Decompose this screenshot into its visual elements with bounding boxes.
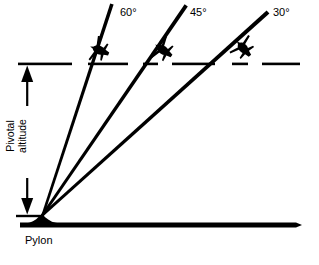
pivotal-altitude-diagram: 60° 45° 30° Pylon Pivotal altitude xyxy=(0,0,319,265)
lower-arrow-head xyxy=(21,198,33,214)
ground-line-group xyxy=(20,223,302,228)
pivotal-dash-5 xyxy=(232,63,248,66)
aircraft-30 xyxy=(227,32,260,64)
upper-arrow-head xyxy=(21,66,33,82)
pivotal-dash-6 xyxy=(262,63,300,66)
pivotal-dash-1 xyxy=(18,63,72,66)
pivotal-dash-4 xyxy=(172,63,215,66)
lower-dimension-arrow xyxy=(21,178,33,214)
pivotal-altitude-line xyxy=(18,63,300,66)
sight-line-45 xyxy=(41,4,188,216)
pivotal-altitude-label-line-1: Pivotal xyxy=(4,96,16,176)
pylon-label: Pylon xyxy=(25,234,53,246)
bottom-tick-mark xyxy=(16,215,44,217)
pivotal-dash-3 xyxy=(143,63,158,66)
sight-lines-group xyxy=(41,3,269,216)
pivotal-altitude-label-line-2: altitude xyxy=(16,96,28,176)
angle-label-45: 45° xyxy=(190,6,207,18)
ground-line xyxy=(20,223,302,228)
angle-label-60: 60° xyxy=(120,6,137,18)
angle-label-30: 30° xyxy=(273,6,290,18)
pivotal-dash-2 xyxy=(88,63,128,66)
aircraft-60 xyxy=(85,34,113,66)
dimension-ticks-group xyxy=(16,215,44,217)
diagram-canvas xyxy=(0,0,319,265)
pivotal-altitude-label: Pivotal altitude xyxy=(4,96,28,176)
